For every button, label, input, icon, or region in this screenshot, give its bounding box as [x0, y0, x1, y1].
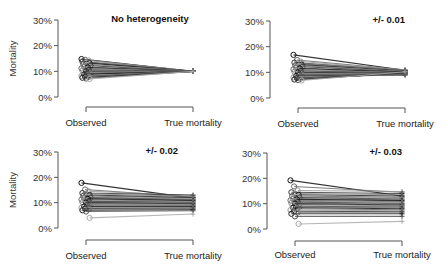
- y-tick-label: 0%: [38, 223, 52, 234]
- panel-title: +/- 0.01: [373, 14, 406, 25]
- y-tick-label: 0%: [250, 93, 264, 104]
- y-tick-label: 30%: [33, 147, 53, 158]
- series-line: [291, 210, 403, 211]
- x-axis-bracket: [295, 241, 402, 246]
- x-label-true-mortality: True mortality: [164, 250, 222, 261]
- x-axis-bracket: [86, 107, 193, 112]
- y-axis-label: Mortality: [7, 172, 18, 208]
- y-tick-label: 20%: [245, 41, 265, 52]
- panel-title: No heterogeneity: [111, 13, 189, 24]
- x-label-observed: Observed: [274, 249, 315, 260]
- panel-title: +/- 0.03: [370, 146, 402, 157]
- y-tick-label: 20%: [242, 173, 262, 184]
- y-tick-label: 30%: [33, 15, 53, 26]
- true-point: [191, 69, 196, 74]
- chart-grid: 0%10%20%30%MortalityNo heterogeneityObse…: [0, 0, 446, 275]
- y-tick-label: 20%: [33, 172, 53, 183]
- y-axis-label: Mortality: [7, 40, 18, 76]
- panel-2: 0%10%20%30%+/- 0.01ObservedTrue mortalit…: [245, 14, 434, 129]
- x-axis-bracket: [298, 108, 405, 113]
- x-label-true-mortality: True mortality: [164, 117, 222, 128]
- x-label-observed: Observed: [65, 250, 106, 261]
- series-line: [298, 190, 402, 191]
- y-tick-label: 0%: [38, 92, 52, 103]
- x-axis-bracket: [86, 240, 193, 245]
- x-label-observed: Observed: [277, 118, 318, 129]
- series-line: [299, 221, 402, 224]
- y-tick-label: 10%: [33, 197, 53, 208]
- true-point: [400, 219, 405, 224]
- series-line: [90, 214, 193, 218]
- panel-3: 0%10%20%30%Mortality+/- 0.02ObservedTrue…: [7, 145, 222, 261]
- y-tick-label: 30%: [245, 16, 265, 27]
- x-label-observed: Observed: [65, 117, 106, 128]
- panel-1: 0%10%20%30%MortalityNo heterogeneityObse…: [7, 13, 222, 128]
- x-label-true-mortality: True mortality: [376, 118, 434, 129]
- series-line: [86, 211, 193, 212]
- true-point: [191, 212, 196, 217]
- true-point: [400, 214, 405, 219]
- y-tick-label: 30%: [242, 148, 262, 159]
- y-tick-label: 0%: [247, 224, 261, 235]
- y-tick-label: 20%: [33, 40, 53, 51]
- panel-title: +/- 0.02: [146, 145, 178, 156]
- panel-4: 0%10%20%30%+/- 0.03ObservedTrue mortalit…: [242, 146, 431, 260]
- y-tick-label: 10%: [33, 66, 53, 77]
- series-line: [294, 211, 402, 212]
- y-tick-label: 10%: [245, 67, 265, 78]
- x-label-true-mortality: True mortality: [373, 249, 431, 260]
- y-tick-label: 10%: [242, 198, 262, 209]
- series-line: [82, 210, 193, 211]
